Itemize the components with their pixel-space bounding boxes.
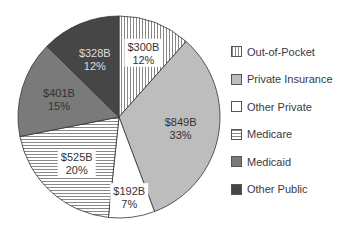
svg-text:$328B: $328B (79, 47, 111, 59)
svg-text:$849B: $849B (165, 116, 197, 128)
swatch-medium-gray-icon (231, 156, 242, 167)
legend: Out-of-Pocket Private Insurance Other Pr… (231, 38, 333, 203)
svg-text:7%: 7% (121, 198, 137, 210)
swatch-dark-gray-icon (231, 184, 242, 195)
swatch-vertical-stripes-icon (231, 46, 242, 57)
legend-item-other-private: Other Private (231, 93, 333, 121)
pie-chart: $300B12%$849B33%$192B7%$525B20%$401B15%$… (0, 0, 230, 233)
legend-label: Medicare (247, 128, 292, 140)
legend-label: Other Private (247, 101, 312, 113)
svg-text:12%: 12% (132, 54, 154, 66)
swatch-horizontal-stripes-icon (231, 129, 242, 140)
swatch-light-gray-icon (231, 74, 242, 85)
swatch-white-icon (231, 101, 242, 112)
svg-text:20%: 20% (66, 164, 88, 176)
svg-text:33%: 33% (170, 129, 192, 141)
legend-label: Medicaid (247, 156, 291, 168)
legend-item-medicaid: Medicaid (231, 148, 333, 176)
slice-label-other-private: $192B7% (110, 183, 148, 211)
legend-label: Out-of-Pocket (247, 46, 315, 58)
legend-label: Private Insurance (247, 73, 333, 85)
legend-item-out-of-pocket: Out-of-Pocket (231, 38, 333, 66)
svg-text:15%: 15% (48, 100, 70, 112)
svg-text:$192B: $192B (113, 185, 145, 197)
slice-label-out-of-pocket: $300B12% (124, 39, 162, 67)
slice-label-medicare: $525B20% (58, 149, 96, 177)
svg-text:$300B: $300B (127, 41, 159, 53)
svg-text:12%: 12% (84, 60, 106, 72)
legend-label: Other Public (247, 183, 308, 195)
legend-item-medicare: Medicare (231, 121, 333, 149)
svg-text:$401B: $401B (43, 87, 75, 99)
legend-item-private-insurance: Private Insurance (231, 66, 333, 94)
svg-text:$525B: $525B (61, 151, 93, 163)
legend-item-other-public: Other Public (231, 176, 333, 204)
